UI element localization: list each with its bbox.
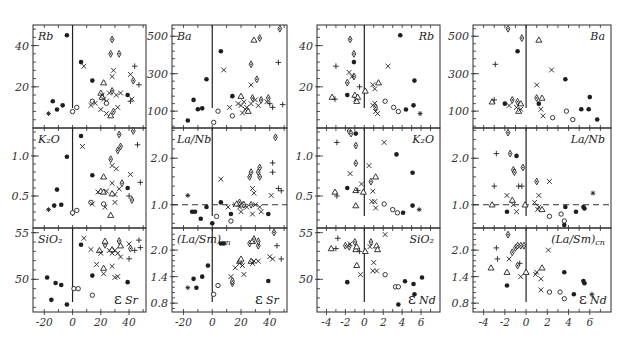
chart-figure: 2040Rb0.51.0K₂O5055SiO₂εSr-2002040100300… bbox=[0, 0, 617, 344]
data-point-diamond-center bbox=[260, 99, 262, 101]
y-tick-label: 2.0 bbox=[451, 152, 470, 165]
data-point-x bbox=[270, 257, 275, 262]
data-point-diamond-center bbox=[249, 176, 251, 178]
data-point-x bbox=[110, 181, 115, 186]
data-point-x bbox=[514, 209, 519, 214]
data-point-x bbox=[539, 276, 544, 281]
y-tick-label: 50 bbox=[15, 273, 29, 286]
data-points bbox=[186, 25, 286, 124]
panel-c2-1: 100300500Ba bbox=[147, 25, 287, 128]
data-point-diamond-center bbox=[521, 37, 523, 39]
x-tick-label: 40 bbox=[121, 316, 136, 328]
data-point-dot bbox=[229, 212, 234, 217]
y-tick-label: 2.0 bbox=[150, 152, 169, 165]
data-point-x bbox=[372, 199, 377, 204]
data-point-plus bbox=[136, 237, 142, 243]
data-point-star bbox=[185, 285, 190, 290]
data-point-dot bbox=[595, 117, 600, 122]
y-tick-label: 40 bbox=[14, 40, 29, 53]
data-point-plus bbox=[270, 105, 276, 111]
data-point-plus bbox=[280, 102, 286, 108]
panel-c2-3: 0.81.42.0(La/Sm)cnεSr bbox=[150, 228, 288, 312]
data-point-dot bbox=[50, 99, 55, 104]
y-tick-label: 0.8 bbox=[151, 297, 169, 310]
data-point-x bbox=[128, 72, 133, 77]
data-point-dot bbox=[198, 216, 203, 221]
panel-c2-2: 1.02.0La/Nb bbox=[150, 128, 288, 228]
data-point-dot bbox=[515, 49, 520, 54]
data-point-triangle bbox=[108, 212, 114, 217]
data-point-triangle bbox=[354, 262, 360, 267]
data-point-diamond-center bbox=[132, 80, 134, 82]
data-point-plus bbox=[494, 245, 500, 251]
data-point-circle bbox=[383, 99, 387, 103]
data-point-circle bbox=[229, 219, 233, 223]
data-points bbox=[46, 128, 143, 218]
data-point-x bbox=[249, 83, 254, 88]
data-point-circle bbox=[396, 285, 400, 289]
data-point-x bbox=[358, 272, 363, 277]
data-point-dot bbox=[505, 283, 510, 288]
column-c1: 2040Rb0.51.0K₂O5055SiO₂εSr-2002040 bbox=[12, 25, 147, 328]
data-point-x bbox=[104, 111, 109, 116]
data-point-dot bbox=[196, 107, 201, 112]
x-tick-label: 6 bbox=[418, 316, 425, 328]
data-point-plus bbox=[270, 160, 276, 166]
data-point-dot bbox=[572, 292, 577, 297]
data-point-x bbox=[373, 206, 378, 211]
data-point-circle bbox=[70, 211, 74, 215]
data-point-circle bbox=[558, 290, 562, 294]
data-point-dot bbox=[396, 302, 401, 307]
panel-c1-2: 0.51.0K₂O bbox=[12, 128, 147, 228]
data-point-triangle bbox=[488, 265, 494, 270]
data-point-circle bbox=[90, 293, 94, 297]
epsilon-axis-subscript: Sr bbox=[266, 294, 280, 307]
x-tick-label: 0 bbox=[209, 316, 216, 328]
data-point-dot bbox=[412, 78, 417, 83]
data-point-diamond-center bbox=[370, 181, 372, 183]
data-point-circle bbox=[571, 117, 575, 121]
data-point-plus bbox=[135, 142, 141, 148]
data-point-dot bbox=[49, 298, 54, 303]
y-tick-label: 20 bbox=[14, 81, 29, 94]
data-point-x bbox=[115, 105, 120, 110]
panel-label: K₂O bbox=[411, 133, 434, 146]
data-point-plus bbox=[270, 169, 276, 175]
data-point-x bbox=[118, 255, 123, 260]
data-point-circle bbox=[562, 219, 566, 223]
data-point-plus bbox=[138, 180, 144, 186]
data-point-x bbox=[110, 74, 115, 79]
data-point-x bbox=[227, 105, 232, 110]
data-point-x bbox=[546, 248, 551, 253]
data-point-x bbox=[547, 179, 552, 184]
data-point-x bbox=[81, 236, 86, 241]
x-tick-label: -20 bbox=[175, 316, 192, 328]
y-tick-label: 1.4 bbox=[452, 271, 470, 284]
data-point-dot bbox=[204, 205, 209, 210]
data-points bbox=[489, 25, 599, 122]
data-point-x bbox=[114, 166, 119, 171]
y-tick-label: 20 bbox=[298, 81, 313, 94]
x-tick-label: 20 bbox=[233, 316, 248, 328]
data-point-star bbox=[418, 111, 423, 116]
data-point-circle bbox=[395, 211, 399, 215]
x-tick-label: 2 bbox=[543, 316, 551, 328]
data-point-circle bbox=[76, 286, 80, 290]
y-tick-label: 300 bbox=[147, 68, 168, 81]
x-tick-label: -2 bbox=[340, 316, 351, 328]
data-point-dot bbox=[404, 107, 409, 112]
data-point-x bbox=[128, 172, 133, 177]
y-tick-label: 500 bbox=[147, 30, 168, 43]
data-point-diamond-center bbox=[253, 238, 255, 240]
data-point-x bbox=[110, 163, 115, 168]
y-tick-label: 100 bbox=[147, 105, 168, 118]
data-points bbox=[329, 33, 422, 116]
data-point-diamond-center bbox=[259, 37, 261, 39]
x-tick-label: 20 bbox=[93, 316, 108, 328]
data-point-star bbox=[46, 111, 51, 116]
data-point-diamond-center bbox=[511, 99, 513, 101]
data-point-diamond-center bbox=[348, 130, 350, 132]
data-point-plus bbox=[136, 82, 142, 88]
data-point-triangle bbox=[504, 269, 510, 274]
data-point-dot bbox=[587, 95, 592, 100]
